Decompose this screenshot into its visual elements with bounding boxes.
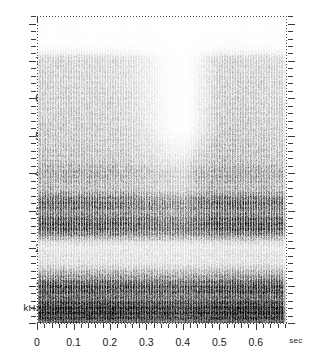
y-tick-right	[288, 241, 293, 242]
x-tick	[74, 324, 75, 330]
y-tick-right	[288, 31, 293, 32]
x-tick	[227, 324, 228, 328]
x-tick	[44, 324, 45, 328]
x-tick	[110, 324, 111, 330]
x-tick	[168, 324, 169, 328]
x-tick	[66, 324, 67, 328]
y-tick	[31, 158, 36, 159]
y-tick-right	[288, 271, 293, 272]
x-tick	[52, 324, 53, 328]
x-tick	[59, 324, 60, 328]
x-axis-line	[37, 323, 287, 324]
y-tick	[31, 39, 36, 40]
x-tick	[183, 324, 184, 330]
y-tick-right	[288, 263, 293, 264]
y-tick	[31, 226, 36, 227]
x-axis-tick-label: 0.4	[175, 336, 190, 348]
y-tick-right	[288, 106, 293, 107]
y-tick-right	[288, 98, 295, 99]
y-tick-right	[288, 83, 293, 84]
y-tick-right	[288, 301, 293, 302]
y-tick-right	[288, 61, 295, 62]
x-tick	[197, 324, 198, 328]
y-tick-right	[288, 293, 293, 294]
y-tick-right	[288, 24, 295, 25]
x-tick	[278, 324, 279, 328]
x-tick	[234, 324, 235, 328]
y-tick-right	[288, 226, 293, 227]
y-tick-right	[288, 16, 293, 17]
x-tick	[125, 324, 126, 328]
x-tick	[219, 324, 220, 330]
x-axis-tick-label: 0	[34, 336, 40, 348]
y-tick	[31, 256, 36, 257]
x-tick	[241, 324, 242, 328]
y-axis-line-right	[286, 16, 287, 324]
x-tick	[248, 324, 249, 328]
x-tick	[132, 324, 133, 328]
y-tick-right	[288, 173, 295, 174]
x-tick	[154, 324, 155, 328]
x-tick	[139, 324, 140, 328]
x-tick	[88, 324, 89, 328]
x-tick	[190, 324, 191, 328]
y-tick	[31, 76, 36, 77]
y-tick	[31, 181, 36, 182]
y-tick-right	[288, 248, 295, 249]
x-tick	[212, 324, 213, 328]
y-tick-right	[288, 53, 293, 54]
y-tick-right	[288, 256, 293, 257]
y-tick-right	[288, 218, 293, 219]
y-tick	[29, 323, 36, 324]
y-tick	[31, 218, 36, 219]
x-tick	[285, 324, 286, 328]
y-tick-right	[288, 188, 293, 189]
y-tick-right	[288, 151, 293, 152]
y-tick-right	[288, 113, 293, 114]
y-tick	[31, 83, 36, 84]
x-tick	[81, 324, 82, 328]
y-tick-right	[288, 46, 293, 47]
y-tick-right	[288, 121, 293, 122]
y-tick	[31, 16, 36, 17]
y-tick-right	[288, 196, 293, 197]
x-axis-tick-label: 0.1	[66, 336, 81, 348]
y-tick	[31, 106, 36, 107]
x-tick	[37, 324, 38, 330]
y-tick-right	[288, 211, 295, 212]
y-tick-right	[288, 286, 295, 287]
y-tick	[31, 233, 36, 234]
x-tick	[263, 324, 264, 328]
spectrogram-image	[38, 17, 286, 323]
y-tick	[31, 188, 36, 189]
y-tick	[31, 263, 36, 264]
y-tick	[31, 143, 36, 144]
y-tick	[31, 293, 36, 294]
y-tick	[31, 46, 36, 47]
spectrogram-plot-area	[38, 17, 286, 323]
y-tick-right	[288, 181, 293, 182]
y-tick-right	[288, 233, 293, 234]
x-axis-tick-label: 0.3	[139, 336, 154, 348]
y-tick-right	[288, 323, 295, 324]
y-tick	[31, 196, 36, 197]
y-tick-right	[288, 76, 293, 77]
y-tick	[29, 24, 36, 25]
y-tick-right	[288, 128, 293, 129]
y-tick-right	[288, 143, 293, 144]
y-tick-right	[288, 308, 293, 309]
x-tick	[146, 324, 147, 330]
x-tick	[176, 324, 177, 328]
y-tick-right	[288, 166, 293, 167]
y-tick-right	[288, 68, 293, 69]
x-tick	[205, 324, 206, 328]
x-tick	[103, 324, 104, 328]
y-tick-right	[288, 278, 293, 279]
y-tick	[31, 151, 36, 152]
x-tick	[161, 324, 162, 328]
x-tick	[256, 324, 257, 330]
x-axis-unit-label: sec	[289, 336, 302, 345]
x-tick	[95, 324, 96, 328]
y-tick	[31, 316, 36, 317]
x-tick	[270, 324, 271, 328]
